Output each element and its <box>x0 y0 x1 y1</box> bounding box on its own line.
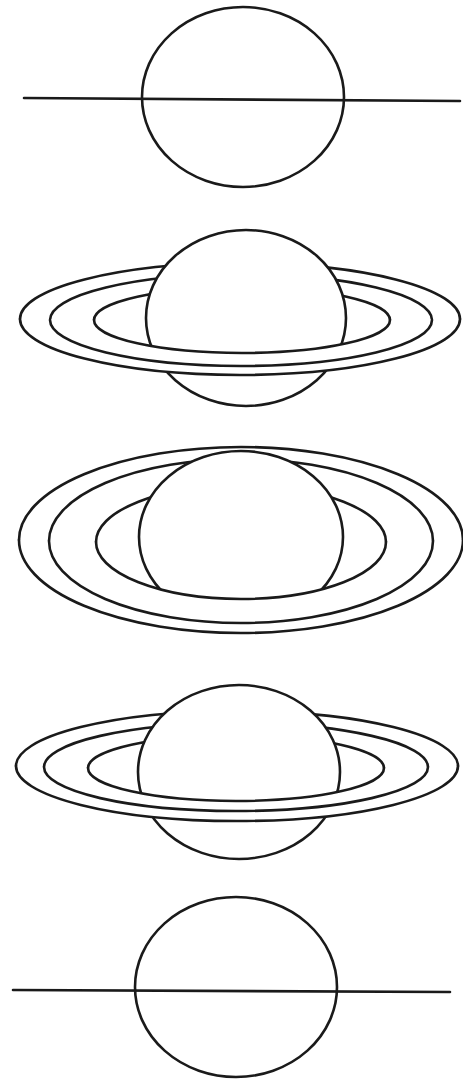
ring-edge-line <box>13 990 450 992</box>
panel-edge-on-1: Rings edge-on <box>24 7 460 187</box>
ring-edge-line <box>24 98 460 101</box>
planet-disc <box>142 7 344 187</box>
panel-tilted-south-2: Rings partially open (returning) <box>16 685 458 859</box>
panel-edge-on-2: Rings edge-on again <box>13 897 450 1077</box>
panel-tilted-south-1: Rings partially open (seen from below) <box>20 230 460 406</box>
panel-max-open: Rings fully open <box>19 447 463 633</box>
planet-disc <box>138 685 340 859</box>
saturn-ring-phases-diagram: Rings edge-onRings partially open (seen … <box>0 0 463 1089</box>
planet-disc <box>135 897 337 1077</box>
planet-disc <box>146 230 346 406</box>
